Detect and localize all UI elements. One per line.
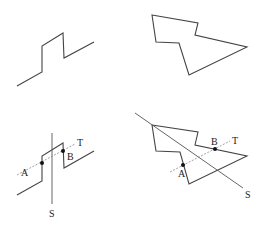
label-s: S (49, 208, 55, 219)
label-a: A (21, 167, 29, 178)
polyline-bottom-left (17, 143, 94, 195)
figure-canvas: A B T S A B T S (0, 0, 271, 227)
panel-bottom-right: A B T S (135, 113, 251, 200)
point-a (181, 163, 185, 167)
point-a (40, 161, 44, 165)
line-s (135, 113, 243, 188)
point-b (213, 147, 217, 151)
polygon-top-right (152, 15, 247, 75)
label-s: S (245, 189, 251, 200)
point-b (61, 149, 65, 153)
label-b: B (211, 136, 218, 147)
panel-bottom-left: A B T S (17, 133, 94, 219)
label-b: B (67, 151, 74, 162)
polyline-top-left (17, 33, 94, 86)
label-a: A (178, 168, 186, 179)
polygon-bottom-right (152, 125, 247, 184)
label-t: T (232, 135, 238, 146)
label-t: T (77, 137, 83, 148)
